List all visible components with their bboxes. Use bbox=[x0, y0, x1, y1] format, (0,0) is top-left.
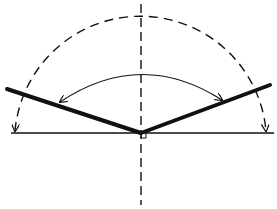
angle-diagram bbox=[0, 0, 277, 209]
right-bold-line bbox=[141, 85, 270, 133]
diagram-svg bbox=[0, 0, 277, 209]
left-bold-line bbox=[7, 89, 141, 133]
